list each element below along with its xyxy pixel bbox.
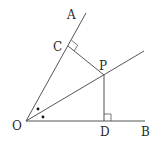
label-o: O xyxy=(12,119,22,133)
label-a: A xyxy=(66,8,76,22)
right-angle-mark-d xyxy=(104,114,111,121)
label-c: C xyxy=(53,40,62,54)
label-p: P xyxy=(99,59,107,73)
angle-dot-aop xyxy=(37,108,40,111)
diagram-canvas: A C P O D B xyxy=(0,0,158,147)
ray-oa xyxy=(26,13,86,121)
bisector-ray-op xyxy=(26,51,144,121)
angle-dot-pob xyxy=(42,116,45,119)
geometry-diagram: A C P O D B xyxy=(0,0,158,147)
label-d: D xyxy=(100,125,110,139)
label-b: B xyxy=(141,125,150,139)
